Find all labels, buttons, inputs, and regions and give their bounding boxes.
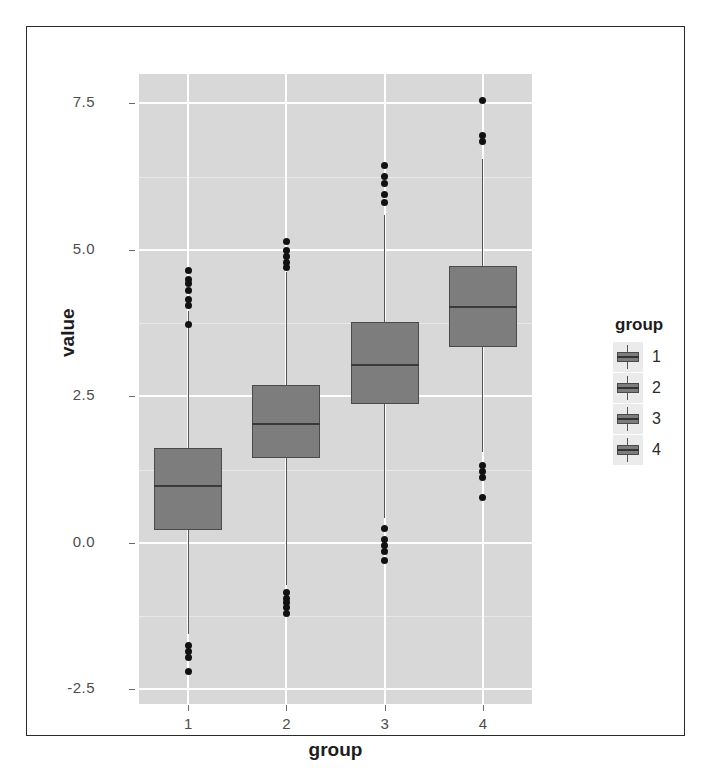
whisker-upper (482, 159, 483, 266)
whisker-lower (286, 458, 287, 585)
legend-item-1[interactable]: 1 (613, 341, 705, 372)
median-line (351, 364, 419, 366)
y-tick-mark (129, 250, 135, 251)
legend-key-boxplot-icon (613, 404, 643, 434)
y-tick-label: 5.0 (73, 240, 95, 257)
outlier-point (479, 494, 486, 501)
outlier-point (381, 557, 388, 564)
x-tick-label: 1 (168, 715, 208, 732)
plot-panel (139, 74, 532, 704)
outlier-point (381, 180, 388, 187)
x-tick-mark (483, 705, 484, 711)
median-line (252, 423, 320, 425)
whisker-lower (188, 530, 189, 634)
legend-item-3[interactable]: 3 (613, 403, 705, 434)
y-tick-mark (129, 543, 135, 544)
boxplot-3 (351, 74, 419, 704)
outlier-point (479, 97, 486, 104)
y-tick-label: -2.5 (67, 679, 95, 696)
outlier-point (381, 548, 388, 555)
y-tick-label: 2.5 (73, 386, 95, 403)
x-tick-mark (188, 705, 189, 711)
box-iqr (252, 385, 320, 458)
x-tick-label: 3 (365, 715, 405, 732)
outlier-point (381, 173, 388, 180)
x-tick-label: 2 (266, 715, 306, 732)
whisker-upper (188, 311, 189, 448)
outlier-point (185, 321, 192, 328)
outlier-point (381, 191, 388, 198)
legend-item-4[interactable]: 4 (613, 434, 705, 465)
outlier-point (185, 654, 192, 661)
whisker-lower (482, 347, 483, 452)
legend-items: 1234 (613, 341, 705, 465)
legend-key-boxplot-icon (613, 342, 643, 372)
whisker-upper (286, 272, 287, 385)
box-iqr (154, 448, 222, 530)
boxplot-2 (252, 74, 320, 704)
outlier-point (479, 138, 486, 145)
legend: group 1234 (613, 315, 705, 465)
legend-key-boxplot-icon (613, 373, 643, 403)
y-axis-label: value (57, 308, 79, 357)
figure-canvas: 7.55.02.50.0-2.5 value 1234 group group … (0, 0, 711, 768)
x-tick-label: 4 (463, 715, 503, 732)
outlier-point (479, 474, 486, 481)
box-iqr (351, 322, 419, 403)
legend-item-label: 3 (652, 410, 661, 428)
outlier-point (381, 162, 388, 169)
outlier-point (283, 264, 290, 271)
legend-title: group (615, 315, 705, 335)
legend-item-label: 1 (652, 348, 661, 366)
median-line (449, 306, 517, 308)
legend-item-label: 4 (652, 441, 661, 459)
median-line (154, 485, 222, 487)
legend-item-2[interactable]: 2 (613, 372, 705, 403)
y-tick-mark (129, 689, 135, 690)
boxplot-4 (449, 74, 517, 704)
outlier-point (185, 287, 192, 294)
outlier-point (381, 199, 388, 206)
y-tick-label: 0.0 (73, 533, 95, 550)
outlier-point (185, 302, 192, 309)
boxplot-1 (154, 74, 222, 704)
y-tick-mark (129, 396, 135, 397)
outlier-point (283, 238, 290, 245)
y-tick-mark (129, 103, 135, 104)
legend-key-boxplot-icon (613, 435, 643, 465)
figure-border: 7.55.02.50.0-2.5 value 1234 group group … (26, 26, 685, 736)
y-tick-label: 7.5 (73, 93, 95, 110)
x-axis-label: group (139, 739, 532, 761)
whisker-upper (384, 215, 385, 323)
outlier-point (381, 525, 388, 532)
outlier-point (185, 668, 192, 675)
outlier-point (185, 280, 192, 287)
whisker-lower (384, 404, 385, 518)
x-tick-mark (385, 705, 386, 711)
outlier-point (283, 610, 290, 617)
legend-item-label: 2 (652, 379, 661, 397)
outlier-point (185, 267, 192, 274)
x-tick-mark (286, 705, 287, 711)
